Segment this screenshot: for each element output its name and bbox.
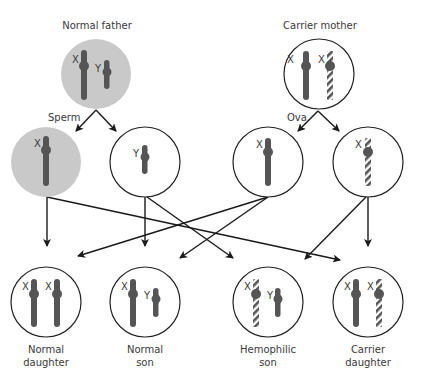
inheritance-diagram: Normal father Carrier mother X Y X X Spe…	[0, 0, 422, 371]
father-cell: X Y	[61, 39, 131, 109]
offspring-label: Hemophilic	[240, 344, 296, 355]
offspring-label: Normal	[127, 344, 163, 355]
svg-text:Y: Y	[266, 290, 274, 301]
sperm-x-cell: X	[11, 127, 81, 197]
svg-text:Y: Y	[143, 290, 151, 301]
arrow-mother-to-ovum-xh	[318, 111, 339, 131]
svg-text:X: X	[256, 139, 263, 150]
mother-cell: X X	[284, 39, 354, 109]
arrows	[47, 110, 368, 260]
arrow-sperm-y-to-hemophilic-son	[147, 197, 233, 258]
ovum-x-cell: X	[233, 127, 303, 197]
svg-text:X: X	[34, 138, 41, 149]
svg-text:X: X	[72, 54, 79, 65]
offspring-label: daughter	[23, 357, 70, 368]
svg-text:X: X	[45, 281, 52, 292]
offspring-hemophilic-son: X Y Hemophilic son	[233, 267, 303, 368]
svg-text:Y: Y	[94, 63, 102, 74]
offspring-label: son	[136, 357, 154, 368]
offspring-normal-son: X Y Normal son	[110, 267, 180, 368]
sperm-y-cell: Y	[110, 127, 180, 197]
svg-text:X: X	[367, 281, 374, 292]
arrow-ovum-xh-to-hemophilic-son	[305, 197, 366, 259]
svg-text:Y: Y	[132, 148, 140, 159]
father-label: Normal father	[62, 20, 132, 31]
mother-label: Carrier mother	[283, 20, 358, 31]
svg-text:X: X	[344, 281, 351, 292]
offspring-label: Normal	[28, 344, 64, 355]
ovum-xh-cell: X	[333, 127, 403, 197]
arrow-sperm-x-to-carrier-daughter	[47, 197, 340, 260]
arrow-father-to-sperm-y	[96, 110, 116, 131]
arrow-ovum-x-to-normal-son	[180, 197, 268, 258]
offspring-carrier-daughter: X X Carrier daughter	[333, 267, 403, 368]
svg-text:X: X	[355, 139, 362, 150]
offspring-normal-daughter: X X Normal daughter	[11, 267, 81, 368]
svg-text:X: X	[287, 54, 294, 65]
ova-label: Ova	[287, 112, 307, 123]
svg-text:X: X	[244, 281, 251, 292]
svg-text:X: X	[318, 54, 325, 65]
arrow-ovum-x-to-normal-daughter	[78, 197, 268, 256]
offspring-label: Carrier	[351, 344, 386, 355]
offspring-label: son	[259, 357, 277, 368]
svg-text:X: X	[22, 281, 29, 292]
sperm-label: Sperm	[48, 112, 81, 123]
offspring-label: daughter	[345, 357, 392, 368]
svg-text:X: X	[121, 281, 128, 292]
